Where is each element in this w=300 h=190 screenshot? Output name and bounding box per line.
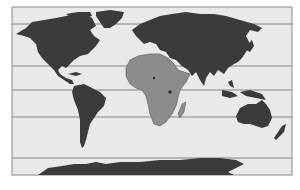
marker-dot (153, 77, 155, 79)
world-map (0, 0, 300, 190)
marker-dot (168, 90, 172, 94)
